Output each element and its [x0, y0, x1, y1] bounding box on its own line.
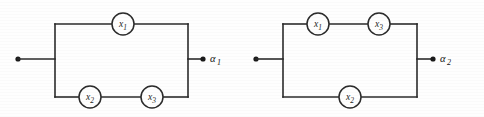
circuit-1-output-label: α1 — [210, 53, 221, 67]
circuit-2-output-label: α2 — [440, 53, 451, 67]
circuit-canvas: x1 x2 x3 α1 — [0, 0, 484, 117]
circuit-2: x1 x3 x2 α2 — [253, 13, 451, 108]
switching-circuit-figure: x1 x2 x3 α1 — [0, 0, 484, 117]
circuit-1-output-terminal-dot — [200, 56, 205, 61]
circuit-1: x1 x2 x3 α1 — [15, 13, 221, 108]
circuit-2-output-terminal-dot — [430, 56, 435, 61]
